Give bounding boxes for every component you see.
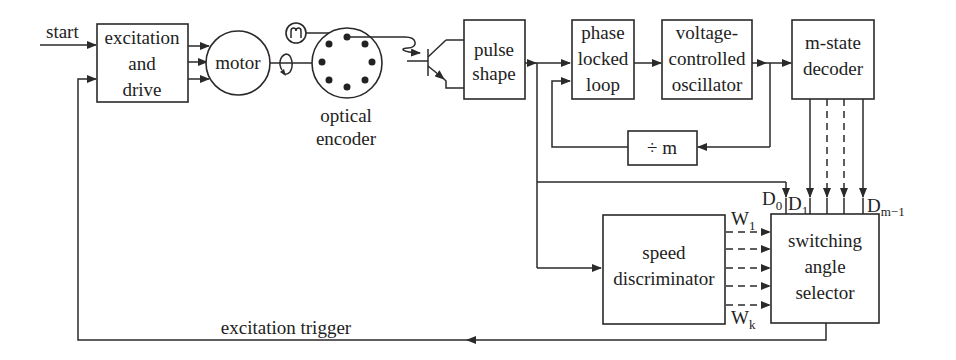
pll-label-2: locked	[578, 48, 629, 69]
block-diagram: start excitation and drive motor	[0, 0, 956, 360]
motor-block: motor	[206, 31, 270, 95]
vco-label-1: voltage-	[676, 22, 738, 43]
speed-discriminator-label-2: discriminator	[613, 268, 715, 289]
phase-locked-loop-block: phase locked loop	[572, 20, 634, 99]
d0-label: D0	[762, 188, 782, 213]
pulse-shape-label-2: shape	[472, 63, 515, 84]
decoder-label-2: decoder	[803, 58, 864, 79]
pll-label-3: loop	[586, 74, 620, 95]
selector-label-3: selector	[795, 282, 855, 303]
vco-block: voltage- controlled oscillator	[662, 20, 752, 99]
excitation-drive-label-1: excitation	[105, 27, 180, 48]
excitation-drive-block: excitation and drive	[97, 24, 188, 102]
pulse-shape-label-1: pulse	[474, 39, 514, 60]
motor-label: motor	[215, 52, 261, 73]
optical-encoder-label-2: encoder	[316, 128, 377, 149]
start-label: start	[46, 21, 79, 42]
wk-label: Wk	[731, 307, 756, 332]
divide-by-m-block: ÷ m	[628, 131, 697, 165]
start-input: start	[40, 21, 96, 45]
phototransistor-icon	[407, 40, 464, 88]
decoder-label-1: m-state	[805, 32, 861, 53]
divide-by-m-label: ÷ m	[647, 137, 677, 158]
vco-label-2: controlled	[668, 48, 746, 69]
selector-label-1: switching	[788, 230, 862, 251]
optical-encoder-label-1: optical	[320, 105, 372, 126]
pulse-shape-block: pulse shape	[464, 20, 525, 99]
vco-label-3: oscillator	[672, 74, 743, 95]
excitation-trigger-label: excitation trigger	[221, 317, 352, 338]
excitation-drive-label-2: and	[128, 53, 156, 74]
shaft-rotation-icon	[270, 54, 313, 76]
pll-label-1: phase	[581, 22, 624, 43]
excitation-drive-label-3: drive	[122, 79, 161, 100]
switching-angle-selector-block: switching angle selector	[771, 214, 879, 323]
selector-label-2: angle	[804, 256, 845, 277]
speed-discriminator-label-1: speed	[642, 242, 686, 263]
speed-discriminator-block: speed discriminator	[603, 215, 725, 324]
m-state-decoder-block: m-state decoder	[792, 20, 874, 99]
speed-output-lines	[726, 232, 770, 305]
w1-label: W1	[731, 208, 755, 233]
speed-signal-labels: W1 Wk	[731, 208, 756, 332]
optical-encoder-disc: optical encoder	[312, 28, 382, 149]
